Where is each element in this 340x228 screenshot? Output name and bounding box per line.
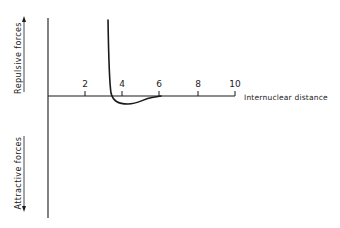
repulsive-label-group: Repulsive forces: [14, 16, 26, 94]
x-axis-title: Internuclear distance: [244, 93, 328, 102]
repulsive-forces-label: Repulsive forces: [14, 22, 23, 94]
tick-label-4: 4: [119, 79, 125, 89]
diagram-canvas: 2 4 6 8 10 Internuclear distance Repulsi…: [0, 0, 340, 228]
force-curve: [108, 20, 161, 104]
attractive-label-group: Attractive forces: [14, 136, 26, 212]
tick-label-10: 10: [229, 79, 241, 89]
attractive-forces-label: Attractive forces: [14, 137, 23, 210]
arrow-up-icon: [22, 16, 26, 22]
tick-label-6: 6: [156, 79, 162, 89]
x-ticks: [85, 91, 235, 96]
tick-label-2: 2: [82, 79, 88, 89]
tick-label-8: 8: [195, 79, 201, 89]
